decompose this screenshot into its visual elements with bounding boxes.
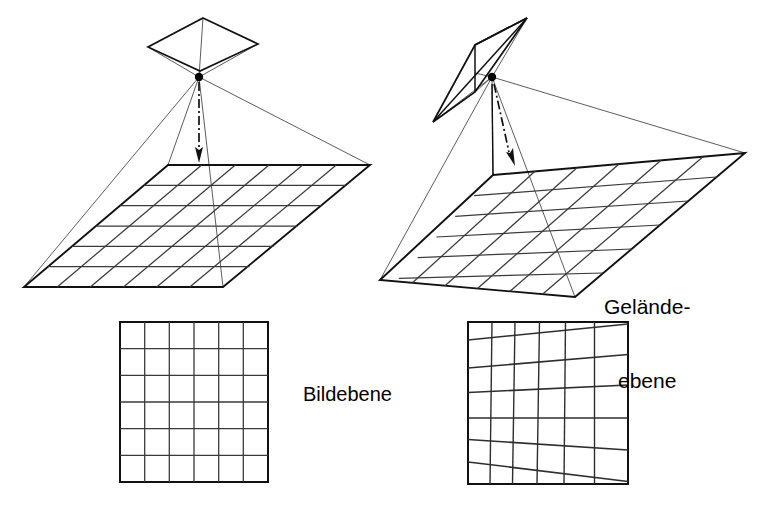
left-optical-axis-arrowhead bbox=[195, 147, 203, 163]
terrain-plane-label: Gelände- ebene bbox=[604, 245, 690, 443]
figure-canvas: Gelände- ebene Bildebene bbox=[0, 0, 759, 505]
left-panel-group bbox=[24, 18, 370, 287]
undistorted-image-grid bbox=[120, 322, 268, 482]
right-plumb-line bbox=[492, 84, 493, 176]
left-projection-center bbox=[195, 73, 203, 81]
right-optical-axis bbox=[494, 84, 509, 152]
distorted-image-grid-vertical bbox=[490, 322, 595, 484]
image-plane-label: Bildebene bbox=[303, 383, 392, 407]
left-projection-rays bbox=[24, 77, 370, 287]
terrain-plane-label-line1: Gelände- bbox=[604, 295, 690, 320]
right-optical-axis-arrowhead bbox=[506, 148, 515, 166]
left-image-plane bbox=[148, 18, 258, 71]
right-image-plane-inner-edges bbox=[433, 18, 527, 122]
right-projection-center bbox=[488, 73, 496, 81]
left-rays-above bbox=[148, 18, 258, 77]
terrain-plane-label-line2: ebene bbox=[604, 369, 690, 394]
